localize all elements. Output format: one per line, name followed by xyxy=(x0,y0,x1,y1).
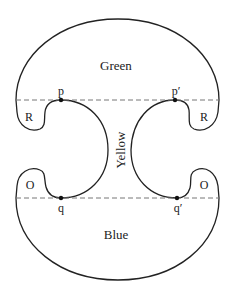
label-yellow: Yellow xyxy=(113,131,128,169)
yellow-left-boundary xyxy=(61,100,108,198)
point-q-prime xyxy=(175,196,179,200)
label-q-prime: q′ xyxy=(174,201,183,215)
point-q xyxy=(59,196,63,200)
label-r-left: R xyxy=(25,110,33,124)
map-coloring-diagram: Green Blue Yellow R R O O p p′ q q′ xyxy=(0,0,231,299)
label-q: q xyxy=(58,201,64,215)
label-o-right: O xyxy=(200,178,209,192)
point-p xyxy=(59,98,63,102)
yellow-right-boundary xyxy=(131,150,177,198)
point-p-prime xyxy=(173,98,177,102)
label-green: Green xyxy=(100,58,132,73)
green-region-outline xyxy=(16,19,219,150)
label-o-left: O xyxy=(26,178,35,192)
label-p-prime: p′ xyxy=(172,84,181,98)
label-blue: Blue xyxy=(104,227,129,242)
blue-region-outline xyxy=(16,169,219,280)
label-p: p xyxy=(58,84,64,98)
label-r-right: R xyxy=(200,110,208,124)
